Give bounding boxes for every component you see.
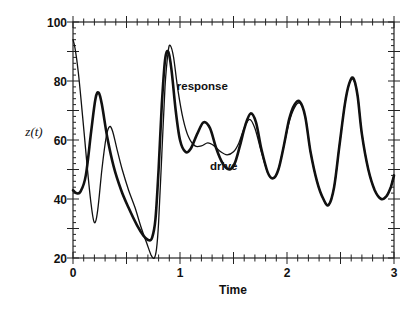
- x-tick-label: 2: [284, 266, 291, 280]
- annotation-response: response: [177, 80, 228, 92]
- x-tick-labels: 0123: [70, 266, 398, 280]
- y-tick-label: 20: [54, 252, 68, 266]
- y-axis-title: z(t): [24, 124, 42, 139]
- axis-ticks: [67, 16, 400, 264]
- plot-frame: [73, 22, 394, 258]
- y-tick-label: 60: [54, 134, 68, 148]
- x-tick-label: 3: [391, 266, 398, 280]
- x-tick-label: 1: [177, 266, 184, 280]
- y-tick-labels: 20406080100: [47, 16, 67, 266]
- x-axis-title: Time: [219, 283, 247, 297]
- y-tick-label: 100: [47, 16, 67, 30]
- plot-border: [73, 22, 394, 258]
- x-tick-label: 0: [70, 266, 77, 280]
- chart-svg: 0123 20406080100 Time z(t) response driv…: [0, 0, 419, 309]
- series-layer: [73, 40, 394, 259]
- series-line-drive: [73, 51, 394, 240]
- y-tick-label: 40: [54, 193, 68, 207]
- y-tick-label: 80: [54, 75, 68, 89]
- annotation-drive: drive: [210, 160, 238, 172]
- series-line-response: [73, 40, 394, 259]
